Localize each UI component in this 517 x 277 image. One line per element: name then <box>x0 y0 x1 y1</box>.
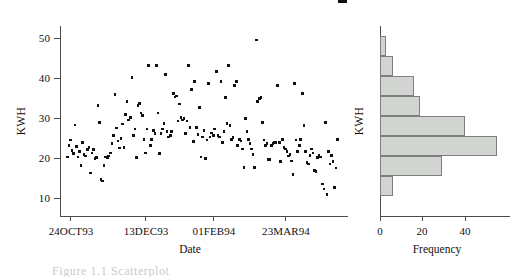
histogram-bar <box>380 136 497 156</box>
histogram-bar <box>380 156 442 176</box>
scatter-point <box>281 138 284 141</box>
scatter-point <box>309 154 312 157</box>
scatter-point <box>312 152 315 155</box>
scatter-point <box>155 64 158 67</box>
scatter-point <box>101 180 104 183</box>
scatter-point <box>118 147 121 150</box>
scatter-point <box>289 153 292 156</box>
scatter-point <box>293 82 296 85</box>
scatter-point <box>292 173 295 176</box>
scatter-point <box>212 134 215 137</box>
scatter-point <box>260 96 263 99</box>
scatter-point <box>310 148 313 151</box>
scatter-point <box>157 112 160 115</box>
scatter-plot-panel: 50 40 30 20 10 KWH 24OCT93 13DEC93 01FEB… <box>0 0 352 277</box>
scatter-point <box>114 93 117 96</box>
scatter-point <box>86 148 89 151</box>
scatter-point <box>98 121 101 124</box>
scatter-point <box>177 120 180 123</box>
scatter-point <box>229 124 232 127</box>
scatter-point <box>137 104 140 107</box>
scatter-point <box>279 160 282 163</box>
scatter-point <box>71 149 74 152</box>
scatter-point <box>264 144 267 147</box>
scatter-point <box>95 156 98 159</box>
scatter-data-layer <box>0 0 352 277</box>
scatter-point <box>195 126 198 129</box>
scatter-point <box>146 128 149 131</box>
scatter-point <box>184 132 187 135</box>
histogram-bar <box>380 116 465 136</box>
scatter-point <box>107 155 110 158</box>
scatter-point <box>278 141 281 144</box>
scatter-point <box>68 144 71 147</box>
scatter-point <box>84 155 87 158</box>
scatter-point <box>150 138 153 141</box>
scatter-point <box>301 92 304 95</box>
scatter-point <box>109 152 112 155</box>
scatter-point <box>132 134 135 137</box>
scatter-point <box>143 138 146 141</box>
scatter-point <box>241 148 244 151</box>
scatter-point <box>206 139 209 142</box>
scatter-point <box>66 156 69 159</box>
scatter-point <box>161 128 164 131</box>
scatter-point <box>197 133 200 136</box>
scatter-point <box>123 146 126 149</box>
scatter-point <box>244 117 247 120</box>
scatter-point <box>138 102 141 105</box>
scatter-point <box>147 64 150 67</box>
scatter-point <box>91 152 94 155</box>
scatter-point <box>88 146 91 149</box>
scatter-point <box>336 138 339 141</box>
scatter-point <box>270 144 273 147</box>
scatter-point <box>243 166 246 169</box>
scatter-point <box>186 120 189 123</box>
histogram-bar <box>380 56 393 76</box>
scatter-point <box>266 142 269 145</box>
scatter-point <box>236 144 239 147</box>
scatter-point <box>164 73 167 76</box>
scatter-point <box>193 80 196 83</box>
scatter-point <box>154 132 157 135</box>
scatter-point <box>323 188 326 191</box>
scatter-point <box>121 123 124 126</box>
scatter-point <box>223 130 226 133</box>
scatter-point <box>321 183 324 186</box>
scatter-point <box>333 186 336 189</box>
scatter-point <box>75 145 78 148</box>
scatter-point <box>204 157 207 160</box>
scatter-point <box>307 163 310 166</box>
scatter-point <box>131 76 134 79</box>
scatter-point <box>329 163 332 166</box>
scatter-point <box>92 148 95 151</box>
scatter-point <box>220 80 223 83</box>
scatter-point <box>261 121 264 124</box>
scatter-point <box>124 113 127 116</box>
scatter-point <box>327 150 330 153</box>
scatter-point <box>117 140 120 143</box>
scatter-point <box>103 164 106 167</box>
histogram-bars-layer <box>352 0 517 277</box>
scatter-point <box>77 156 80 159</box>
scatter-point <box>207 82 210 85</box>
scatter-point <box>112 134 115 137</box>
figure-root: 50 40 30 20 10 KWH 24OCT93 13DEC93 01FEB… <box>0 0 517 277</box>
scatter-point <box>296 150 299 153</box>
scatter-point <box>198 106 201 109</box>
scatter-point <box>326 193 329 196</box>
scatter-point <box>160 132 163 135</box>
scatter-point <box>232 136 235 139</box>
scatter-point <box>233 84 236 87</box>
scatter-point <box>189 126 192 129</box>
scatter-point <box>218 136 221 139</box>
scatter-point <box>126 100 129 103</box>
scatter-point <box>120 137 123 140</box>
histogram-bar <box>380 76 414 96</box>
scatter-point <box>303 124 306 127</box>
scatter-point <box>335 167 338 170</box>
scatter-point <box>263 139 266 142</box>
scatter-point <box>169 134 172 137</box>
scatter-point <box>135 156 138 159</box>
scatter-point <box>97 104 100 107</box>
